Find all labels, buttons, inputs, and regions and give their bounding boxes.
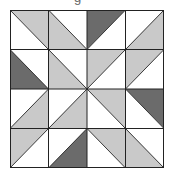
title-fragment: g <box>74 0 81 5</box>
quilt-block-diagram <box>10 10 164 168</box>
quilt-grid <box>10 10 164 168</box>
